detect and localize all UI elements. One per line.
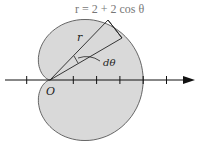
dtheta-label: dθ <box>103 57 115 68</box>
cardioid-diagram: r = 2 + 2 cos θ r dθ O <box>0 0 206 145</box>
axis-arrow-icon <box>183 76 195 84</box>
origin-label: O <box>46 85 55 98</box>
equation-label: r = 2 + 2 cos θ <box>75 2 145 16</box>
radius-label: r <box>77 31 83 44</box>
